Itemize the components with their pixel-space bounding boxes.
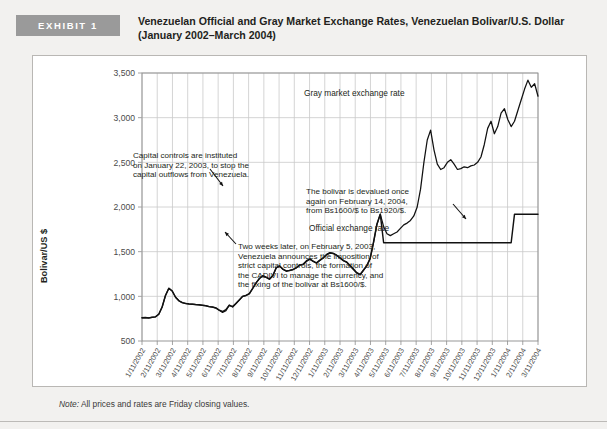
svg-text:2,500: 2,500 — [113, 158, 135, 168]
exhibit-page: EXHIBIT 1 Venezuelan Official and Gray M… — [0, 0, 607, 429]
svg-text:the fixing of the bolivar at B: the fixing of the bolivar at Bs1600/$. — [238, 280, 367, 289]
y-axis-title: Bolivar/US $ — [39, 229, 49, 283]
svg-text:3,500: 3,500 — [113, 68, 135, 78]
svg-text:on January 22, 2003, to stop t: on January 22, 2003, to stop the — [133, 161, 250, 170]
svg-text:500: 500 — [121, 336, 136, 346]
exhibit-title-block: Venezuelan Official and Gray Market Exch… — [138, 14, 564, 42]
svg-text:Capital controls are institute: Capital controls are instituted — [133, 151, 237, 160]
svg-text:1,500: 1,500 — [113, 247, 135, 257]
figure-note: Note: All prices and rates are Friday cl… — [59, 399, 249, 409]
svg-text:Official exchange rate: Official exchange rate — [309, 223, 389, 233]
svg-text:from Bs1600/$ to Bs1920/$.: from Bs1600/$ to Bs1920/$. — [306, 206, 406, 215]
svg-text:3,000: 3,000 — [113, 113, 135, 123]
exhibit-badge: EXHIBIT 1 — [16, 15, 120, 36]
y-axis-tick-labels: 5001,0001,5002,0002,5003,0003,500 — [113, 68, 135, 346]
svg-text:the CADIVI to manage the curre: the CADIVI to manage the currency, and — [238, 271, 383, 280]
bottom-divider — [0, 421, 607, 422]
note-text: All prices and rates are Friday closing … — [81, 399, 250, 409]
page-subtitle: (January 2002–March 2004) — [138, 28, 564, 42]
svg-text:strict capital controls, the f: strict capital controls, the formation o… — [238, 261, 373, 270]
x-axis-tick-labels: 1/11/20022/11/20023/11/20024/11/20025/11… — [123, 347, 543, 383]
svg-text:capital outflows from Venezuel: capital outflows from Venezuela. — [133, 170, 249, 179]
exhibit-header: EXHIBIT 1 Venezuelan Official and Gray M… — [16, 14, 591, 42]
svg-text:Venezuela announces the imposi: Venezuela announces the imposition of — [238, 252, 380, 261]
chart-figure: 5001,0001,5002,0002,5003,0003,500 1/11/2… — [32, 55, 587, 387]
exchange-rate-line-chart: 5001,0001,5002,0002,5003,0003,500 1/11/2… — [33, 56, 584, 384]
svg-text:1,000: 1,000 — [113, 292, 135, 302]
svg-text:Two weeks later, on February 5: Two weeks later, on February 5, 2003, — [238, 242, 375, 251]
svg-text:Gray market exchange rate: Gray market exchange rate — [304, 88, 405, 98]
svg-text:The bolivar is devalued once: The bolivar is devalued once — [306, 187, 410, 196]
svg-text:again on February 14, 2004,: again on February 14, 2004, — [306, 197, 408, 206]
svg-text:2,000: 2,000 — [113, 202, 135, 212]
note-prefix: Note: — [59, 399, 79, 409]
page-title: Venezuelan Official and Gray Market Exch… — [138, 14, 564, 28]
